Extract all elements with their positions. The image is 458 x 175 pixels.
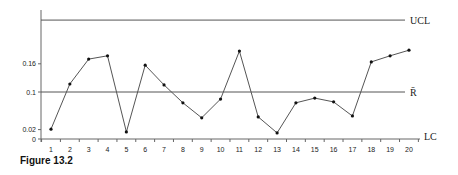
x-tick-label: 4 — [106, 146, 110, 153]
data-point — [313, 97, 316, 100]
x-tick-label: 9 — [200, 146, 204, 153]
data-point — [49, 128, 52, 131]
ucl-label: UCL — [410, 15, 430, 26]
axes: 00.020.10.161234567891011121314151617181… — [22, 10, 420, 153]
x-tick-label: 12 — [254, 146, 262, 153]
data-point — [181, 101, 184, 104]
x-tick-label: 17 — [349, 146, 357, 153]
y-tick-label: 0 — [32, 136, 36, 143]
data-point — [275, 131, 278, 134]
y-tick-label: 0.02 — [22, 126, 36, 133]
data-point — [407, 49, 410, 52]
data-point — [87, 58, 90, 61]
x-tick-label: 8 — [181, 146, 185, 153]
x-tick-label: 18 — [367, 146, 375, 153]
data-point — [219, 97, 222, 100]
x-tick-label: 6 — [143, 146, 147, 153]
data-point — [162, 83, 165, 86]
data-point — [106, 54, 109, 57]
data-point — [370, 60, 373, 63]
data-point — [68, 82, 71, 85]
data-point — [351, 114, 354, 117]
x-tick-label: 19 — [386, 146, 394, 153]
x-tick-label: 14 — [292, 146, 300, 153]
y-tick-label: 0.1 — [26, 89, 36, 96]
data-point — [332, 100, 335, 103]
x-tick-label: 5 — [124, 146, 128, 153]
x-tick-label: 3 — [87, 146, 91, 153]
reference-lines: UCLR̄LC — [41, 15, 437, 142]
data-point — [389, 54, 392, 57]
x-tick-label: 11 — [236, 146, 243, 153]
x-tick-label: 2 — [68, 146, 72, 153]
data-point — [125, 130, 128, 133]
figure-caption: Figure 13.2 — [20, 155, 73, 166]
data-point — [257, 115, 260, 118]
y-tick-label: 0.16 — [22, 60, 36, 67]
data-point — [200, 116, 203, 119]
x-tick-label: 1 — [49, 146, 53, 153]
control-chart: 00.020.10.161234567891011121314151617181… — [0, 0, 458, 175]
x-tick-label: 10 — [217, 146, 225, 153]
x-tick-label: 15 — [311, 146, 319, 153]
data-point — [294, 101, 297, 104]
lc-label: LC — [424, 131, 437, 142]
r-bar-label: R̄ — [410, 87, 417, 98]
data-point — [144, 64, 147, 67]
x-tick-label: 7 — [162, 146, 166, 153]
data-point — [238, 50, 241, 53]
x-tick-label: 16 — [330, 146, 338, 153]
x-tick-label: 20 — [405, 146, 413, 153]
x-tick-label: 13 — [273, 146, 281, 153]
